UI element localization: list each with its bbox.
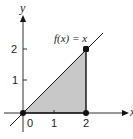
function-label: f(x) = x	[54, 32, 87, 45]
x-tick-label-1: 1	[51, 117, 57, 129]
point-2-0	[83, 110, 89, 116]
point-2-2	[83, 46, 89, 52]
y-tick-label-2: 2	[11, 43, 17, 55]
x-axis-arrow-icon	[122, 110, 129, 116]
diagram-canvas: y x 2 1 0 1 2 f(x) = x	[0, 0, 133, 139]
y-tick-label-1: 1	[12, 74, 18, 86]
x-axis-label: x	[129, 105, 133, 119]
x-tick-label-2: 2	[83, 117, 89, 129]
x-tick-label-0: 0	[27, 117, 33, 129]
point-origin	[20, 110, 26, 116]
y-axis-label: y	[19, 1, 26, 15]
y-axis-arrow-icon	[20, 15, 26, 22]
